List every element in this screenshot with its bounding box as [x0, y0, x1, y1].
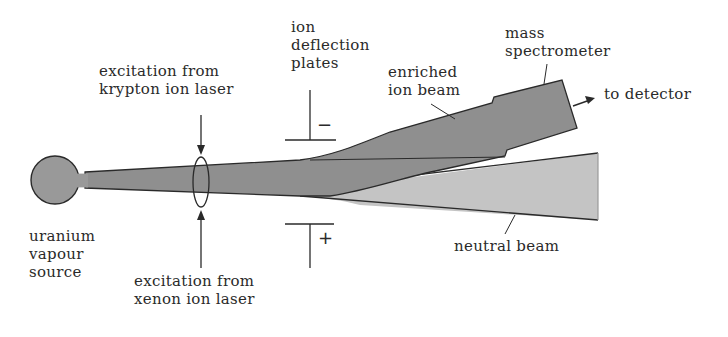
mass-spectrometer-label: mass spectrometer — [505, 24, 611, 60]
deflection-plates-label: ion deflection plates — [291, 18, 370, 72]
to-detector-label: to detector — [604, 85, 691, 103]
enriched-beam-label: enriched ion beam — [388, 63, 460, 99]
neutral-beam-label: neutral beam — [454, 237, 559, 255]
krypton-laser-arrowhead-icon — [197, 145, 205, 155]
detector-arrowhead-icon — [585, 96, 595, 104]
xenon-laser-arrowhead-icon — [197, 210, 205, 220]
source-neck-fill — [74, 174, 88, 188]
mass-spectrometer-leader — [544, 64, 547, 84]
uranium-source-label: uranium vapour source — [29, 227, 95, 281]
xenon-laser-label: excitation from xenon ion laser — [134, 272, 255, 308]
neutral-beam-leader — [505, 215, 515, 234]
positive-plate-symbol: + — [318, 229, 333, 247]
krypton-laser-label: excitation from krypton ion laser — [99, 62, 234, 98]
uranium-source-circle — [31, 156, 79, 204]
isotope-separation-diagram: uranium vapour source excitation from kr… — [0, 0, 728, 337]
negative-plate-symbol: − — [317, 116, 332, 134]
